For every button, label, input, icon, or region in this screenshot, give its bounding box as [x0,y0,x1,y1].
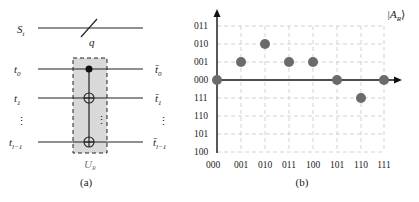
svg-text:001: 001 [234,160,249,170]
svg-text:111: 111 [194,93,208,103]
svg-text:011: 011 [282,160,296,170]
data-points [212,39,389,103]
point-100 [308,57,318,67]
state-label: |AR⟩ [387,8,405,23]
caption-b: (b) [296,176,309,189]
figure-canvas: St q ⋮ t0 t1 ⋮ tl−1 t̄0 t̄1 ⋮ t̄l−1 [0,0,419,202]
qubit-out-label-0: t̄0 [155,63,162,78]
qubit-out-label-1: t̄1 [155,92,162,107]
gate-inner-dots: ⋮ [96,114,107,126]
qubit-in-label-0: t0 [14,63,21,78]
bus-width-label: q [89,36,95,48]
point-011 [284,57,294,67]
qubit-out-dots: ⋮ [158,115,169,127]
svg-text:000: 000 [206,160,221,170]
point-110 [356,93,366,103]
svg-text:101: 101 [194,129,209,139]
x-axis-arrow-icon [394,77,402,84]
qubit-out-label-last: t̄l−1 [153,136,166,151]
chart-grid [217,26,384,152]
svg-text:110: 110 [194,111,208,121]
point-001 [236,57,246,67]
y-axis-arrow-icon [214,9,221,17]
point-101 [332,75,342,85]
svg-text:010: 010 [258,160,273,170]
point-010 [260,39,270,49]
state-chart: 011 010 001 000 111 110 101 100 000 001 … [194,8,405,189]
svg-text:010: 010 [194,39,209,49]
caption-a: (a) [80,176,93,189]
gate-label: UR [84,158,96,171]
svg-text:000: 000 [194,75,209,85]
svg-text:101: 101 [330,160,345,170]
svg-text:110: 110 [354,160,368,170]
point-000 [212,75,222,85]
circuit-diagram: St q ⋮ t0 t1 ⋮ tl−1 t̄0 t̄1 ⋮ t̄l−1 [9,19,169,189]
register-label-s: St [17,23,26,38]
qubit-in-label-1: t1 [14,92,21,107]
y-tick-labels: 011 010 001 000 111 110 101 100 [194,21,209,157]
qubit-in-dots: ⋮ [16,115,27,127]
qubit-in-label-last: tl−1 [9,136,22,151]
control-dot-icon [86,66,93,73]
svg-text:111: 111 [377,160,391,170]
svg-text:001: 001 [194,57,209,67]
point-111 [379,75,389,85]
svg-text:011: 011 [194,21,208,31]
x-tick-labels: 000 001 010 011 100 101 110 111 [206,160,391,170]
svg-text:100: 100 [194,147,209,157]
svg-text:100: 100 [306,160,321,170]
